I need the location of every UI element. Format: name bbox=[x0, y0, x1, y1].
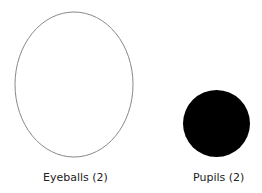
pupil-shape bbox=[183, 90, 250, 157]
eyeball-label: Eyeballs (2) bbox=[43, 171, 108, 184]
pupil-label: Pupils (2) bbox=[193, 171, 244, 184]
eyeball-shape bbox=[15, 12, 133, 157]
parts-diagram bbox=[0, 0, 262, 193]
